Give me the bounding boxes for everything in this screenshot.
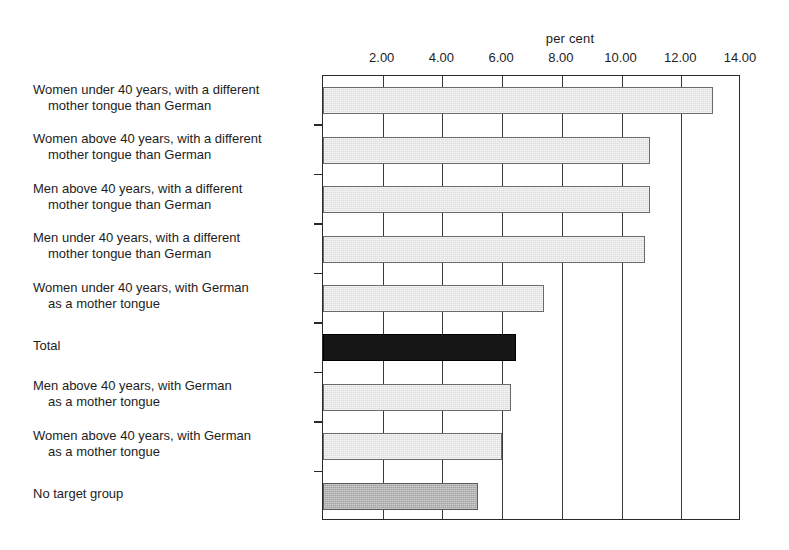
bar-5 [323,334,516,361]
x-tick-label-4.00: 4.00 [429,50,454,65]
x-tick-label-8.00: 8.00 [548,50,573,65]
category-label-2: Men above 40 years, with a differentmoth… [33,181,315,213]
category-label-8: No target group [33,486,315,502]
x-axis-tick-labels: 2.004.006.008.0010.0012.0014.00 [0,50,789,70]
axis-title-per-cent: per cent [510,31,630,46]
bar-0 [323,87,713,114]
y-tick-2 [314,174,323,175]
bar-4 [323,285,544,312]
x-tick-label-2.00: 2.00 [369,50,394,65]
y-tick-3 [314,223,323,224]
bar-1 [323,137,650,164]
plot-area [322,75,740,520]
x-tick-label-12.00: 12.00 [664,50,697,65]
category-label-line1: Women above 40 years, with German [33,428,251,443]
category-label-3: Men under 40 years, with a differentmoth… [33,230,315,262]
category-label-1: Women above 40 years, with a differentmo… [33,131,315,163]
category-label-line2: mother tongue than German [33,197,315,213]
category-label-line1: No target group [33,486,123,501]
y-tick-6 [314,372,323,373]
y-tick-1 [314,124,323,125]
y-tick-7 [314,421,323,422]
bar-6 [323,384,511,411]
category-label-4: Women under 40 years, with Germanas a mo… [33,280,315,312]
category-label-line2: mother tongue than German [33,98,315,114]
y-tick-8 [314,471,323,472]
bar-chart: per cent 2.004.006.008.0010.0012.0014.00… [0,0,789,550]
x-tick-label-10.00: 10.00 [604,50,637,65]
category-label-6: Men above 40 years, with Germanas a moth… [33,378,315,410]
category-label-line2: as a mother tongue [33,394,315,410]
category-label-line2: mother tongue than German [33,246,315,262]
bar-2 [323,186,650,213]
category-label-5: Total [33,338,315,354]
gridline-12 [681,76,682,519]
bar-7 [323,433,502,460]
bar-3 [323,236,645,263]
category-label-line1: Men above 40 years, with German [33,378,232,393]
category-label-line1: Men above 40 years, with a different [33,181,242,196]
category-label-line2: mother tongue than German [33,147,315,163]
category-label-line1: Women under 40 years, with German [33,280,249,295]
category-label-line1: Men under 40 years, with a different [33,230,240,245]
y-tick-5 [314,322,323,323]
category-label-line1: Women above 40 years, with a different [33,131,262,146]
x-tick-label-6.00: 6.00 [488,50,513,65]
category-label-0: Women under 40 years, with a differentmo… [33,82,315,114]
category-label-line2: as a mother tongue [33,296,315,312]
bar-8 [323,483,478,510]
x-tick-label-14.00: 14.00 [724,50,757,65]
y-tick-4 [314,273,323,274]
category-label-line1: Women under 40 years, with a different [33,82,259,97]
category-label-line1: Total [33,338,60,353]
category-label-7: Women above 40 years, with Germanas a mo… [33,428,315,460]
category-label-line2: as a mother tongue [33,444,315,460]
